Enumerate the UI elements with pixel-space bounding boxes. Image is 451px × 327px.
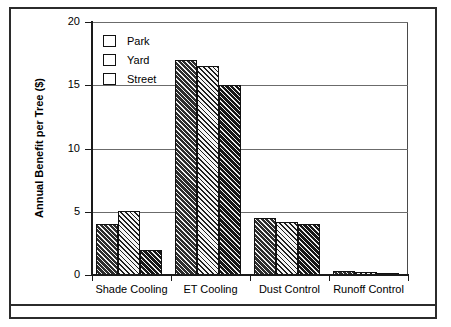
- legend-label: Park: [127, 35, 150, 47]
- legend-item: Yard: [103, 50, 189, 69]
- legend-label: Street: [127, 73, 156, 85]
- legend-swatch: [103, 73, 116, 85]
- bar: [219, 85, 241, 275]
- chart-legend: ParkYardStreet: [103, 31, 189, 88]
- x-tick-label: ET Cooling: [171, 283, 250, 295]
- x-tick-label: Runoff Control: [329, 283, 408, 295]
- y-tick-mark: [85, 275, 92, 276]
- x-tick-label: Shade Cooling: [92, 283, 171, 295]
- y-tick-mark: [85, 85, 92, 86]
- bar: [254, 218, 276, 275]
- x-tick-mark: [92, 276, 93, 281]
- bar: [197, 66, 219, 275]
- y-tick-mark: [85, 212, 92, 213]
- gridline: [92, 22, 408, 23]
- y-tick-mark: [85, 22, 92, 23]
- x-tick-mark: [408, 276, 409, 281]
- bar: [118, 211, 140, 276]
- bar: [96, 224, 118, 275]
- bar-chart: Annual Benefit per Tree ($) 05101520 Sha…: [0, 0, 451, 327]
- x-tick-mark: [171, 276, 172, 281]
- bar: [298, 224, 320, 275]
- legend-swatch: [103, 54, 116, 66]
- legend-label: Yard: [127, 54, 149, 66]
- legend-swatch: [103, 35, 116, 47]
- y-tick-label: 20: [48, 16, 80, 27]
- bar: [140, 250, 162, 275]
- legend-item: Park: [103, 31, 189, 50]
- bar: [276, 222, 298, 275]
- y-tick-label: 10: [48, 143, 80, 154]
- y-tick-label: 15: [48, 79, 80, 90]
- bar: [175, 60, 197, 275]
- gridline: [92, 149, 408, 150]
- legend-item: Street: [103, 69, 189, 88]
- y-tick-label: 5: [48, 206, 80, 217]
- y-tick-label: 0: [48, 269, 80, 280]
- x-tick-mark: [250, 276, 251, 281]
- y-tick-mark: [85, 149, 92, 150]
- y-axis-title: Annual Benefit per Tree ($): [33, 33, 45, 263]
- x-tick-label: Dust Control: [250, 283, 329, 295]
- x-tick-mark: [329, 276, 330, 281]
